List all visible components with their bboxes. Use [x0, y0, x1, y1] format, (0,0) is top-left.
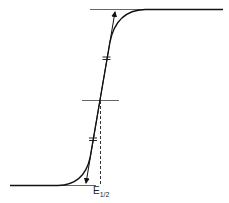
- label-main: E: [93, 185, 100, 196]
- half-wave-potential-label: E1/2: [93, 185, 109, 198]
- label-subscript: 1/2: [100, 191, 110, 198]
- wave-diagram: [0, 0, 229, 203]
- tangent-line: [100, 12, 115, 100]
- tangent-line-lower: [86, 100, 100, 183]
- upper-equal-tick: [103, 57, 111, 60]
- sigmoid-curve: [10, 10, 223, 186]
